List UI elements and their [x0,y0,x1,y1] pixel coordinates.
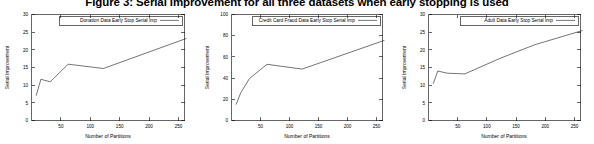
figure-container: Figure 3: Serial Improvement for all thr… [0,0,594,144]
x-axis-ticks-donation [61,15,179,121]
legend-donation: Donation Data Early Stop Serial Imp [59,16,182,25]
y-tick-label: 80 [223,33,229,38]
y-tick-label: 20 [420,48,426,53]
y-tick-label: 15 [23,65,29,70]
y-tick-label: 20 [23,48,29,53]
x-tick-label: 250 [373,124,381,129]
chart-panel-donation: 0 5 10 15 20 25 30 50 100 150 200 250 Nu… [0,8,198,144]
credit-card-fraud-chart-svg: 0 20 40 60 80 100 50 100 150 200 250 Num… [198,8,396,144]
x-tick-label: 100 [483,124,491,129]
y-axis-label-donation: Serial Improvement [4,45,10,89]
y-tick-label: 5 [422,101,425,106]
y-tick-label: 20 [223,97,229,102]
x-tick-label: 200 [541,124,549,129]
y-tick-label: 60 [223,55,229,60]
y-tick-label: 30 [23,12,29,17]
x-tick-label: 150 [315,124,323,129]
plot-frame-adult [429,15,581,121]
y-axis-tick-labels-donation: 0 5 10 15 20 25 30 [23,12,29,123]
x-tick-label: 150 [116,124,124,129]
x-tick-label: 100 [86,124,94,129]
y-tick-label: 0 [422,118,425,123]
y-axis-label-credit: Serial Improvement [204,45,210,89]
x-tick-label: 50 [455,124,461,129]
x-axis-label-adult: Number of Partitions [481,133,527,139]
series-line-adult [433,31,582,84]
y-tick-label: 100 [220,12,228,17]
y-tick-label: 25 [23,30,29,35]
adult-chart-svg: 0 5 10 15 20 25 30 50 100 150 200 250 Nu… [396,8,594,144]
x-tick-label: 150 [512,124,520,129]
x-axis-label-donation: Number of Partitions [85,133,131,139]
x-tick-label: 250 [175,124,183,129]
y-tick-label: 0 [225,118,228,123]
figure-title: Figure 3: Serial Improvement for all thr… [0,0,594,8]
y-tick-label: 30 [420,12,426,17]
chart-panels-row: 0 5 10 15 20 25 30 50 100 150 200 250 Nu… [0,8,594,144]
y-tick-label: 25 [420,30,426,35]
x-axis-ticks-credit [261,15,377,121]
series-line-credit [236,40,384,104]
x-tick-label: 250 [571,124,579,129]
x-tick-label: 200 [344,124,352,129]
y-tick-label: 5 [25,101,28,106]
y-axis-tick-labels-adult: 0 5 10 15 20 25 30 [420,12,426,123]
legend-label-adult: Adult Data Early Stop Serial Imp [484,18,553,23]
x-tick-label: 50 [58,124,64,129]
y-tick-label: 15 [420,65,426,70]
legend-adult: Adult Data Early Stop Serial Imp [460,16,578,25]
y-axis-ticks-donation [32,15,185,121]
y-axis-label-adult: Serial Improvement [401,45,407,89]
x-axis-tick-labels-donation: 50 100 150 200 250 [58,124,182,129]
x-tick-label: 100 [286,124,294,129]
chart-panel-adult: 0 5 10 15 20 25 30 50 100 150 200 250 Nu… [396,8,594,144]
plot-frame-donation [32,15,185,121]
legend-label-donation: Donation Data Early Stop Serial Imp [80,18,157,23]
y-axis-ticks-adult [429,15,581,121]
x-axis-tick-labels-credit: 50 100 150 200 250 [258,124,381,129]
legend-label-credit: Credit Card Fraud Data Early Stop Serial… [259,18,356,23]
y-tick-label: 10 [420,83,426,88]
y-tick-label: 40 [223,76,229,81]
donation-chart-svg: 0 5 10 15 20 25 30 50 100 150 200 250 Nu… [0,8,198,144]
y-axis-tick-labels-credit: 0 20 40 60 80 100 [220,12,228,123]
x-axis-ticks-adult [458,15,575,121]
y-tick-label: 10 [23,83,29,88]
x-tick-label: 200 [145,124,153,129]
legend-credit: Credit Card Fraud Data Early Stop Serial… [252,16,380,25]
chart-panel-credit-card-fraud: 0 20 40 60 80 100 50 100 150 200 250 Num… [198,8,396,144]
x-tick-label: 50 [258,124,264,129]
series-line-donation [36,38,186,95]
x-axis-label-credit: Number of Partitions [284,133,330,139]
x-axis-tick-labels-adult: 50 100 150 200 250 [455,124,579,129]
y-tick-label: 0 [25,118,28,123]
